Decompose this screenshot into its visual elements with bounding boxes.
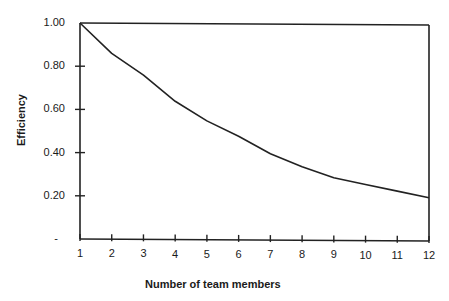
x-axis-label: Number of team members [145, 278, 281, 290]
top-border [80, 23, 429, 25]
x-tick-label: 2 [102, 247, 122, 259]
plot-frame [80, 23, 429, 241]
x-tick-label: 6 [229, 248, 249, 260]
efficiency-curve [80, 23, 429, 198]
x-tick-label: 7 [260, 248, 280, 260]
y-axis-label: Efficiency [15, 94, 27, 146]
x-axis [80, 239, 429, 241]
x-tick-label: 10 [356, 249, 376, 261]
y-tick-label: 0.20 [25, 189, 65, 201]
x-tick-label: 5 [197, 248, 217, 260]
x-tick-label: 4 [165, 248, 185, 260]
x-tick-label: 3 [133, 247, 153, 259]
x-tick-label: 12 [419, 249, 439, 261]
chart-canvas [0, 0, 449, 301]
y-tick-label: - [18, 232, 58, 244]
x-tick-label: 1 [70, 247, 90, 259]
x-tick-label: 8 [292, 248, 312, 260]
y-tick-label: 0.60 [25, 102, 65, 114]
y-tick-label: 1.00 [25, 16, 65, 28]
y-tick-label: 0.40 [25, 146, 65, 158]
x-tick-label: 9 [324, 248, 344, 260]
y-tick-label: 0.80 [25, 59, 65, 71]
x-tick-label: 11 [387, 249, 407, 261]
